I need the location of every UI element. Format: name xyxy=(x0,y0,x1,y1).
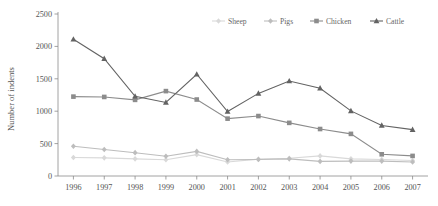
data-point xyxy=(71,143,76,149)
x-tick-label: 2002 xyxy=(250,183,266,192)
legend-label: Chicken xyxy=(326,17,352,26)
data-point xyxy=(194,97,199,102)
y-axis-title: Number of indents xyxy=(6,67,16,131)
x-tick-label: 2004 xyxy=(312,183,328,192)
legend-item-pigs[interactable]: Pigs xyxy=(264,17,293,26)
chart-canvas: 05001000150020002500 1996199719981999200… xyxy=(0,0,438,206)
data-point xyxy=(225,116,230,121)
data-point xyxy=(102,95,107,100)
data-point xyxy=(256,157,261,163)
data-point xyxy=(348,108,354,113)
x-tick-label: 2001 xyxy=(219,183,235,192)
series-pigs xyxy=(71,143,415,164)
series-layer xyxy=(71,36,416,165)
y-tick-label: 500 xyxy=(40,140,52,149)
data-point xyxy=(102,147,107,153)
data-point xyxy=(71,155,76,161)
data-point xyxy=(133,150,138,156)
x-tick-label: 2000 xyxy=(189,183,205,192)
data-point xyxy=(318,153,323,159)
x-tick-label: 2005 xyxy=(343,183,359,192)
legend-label: Sheep xyxy=(228,17,247,26)
legend-marker xyxy=(268,18,273,24)
y-tick-label: 2500 xyxy=(36,10,52,19)
x-tick-label: 1997 xyxy=(96,183,112,192)
data-point xyxy=(410,154,415,159)
x-tick-label: 2007 xyxy=(404,183,420,192)
series-sheep xyxy=(71,152,415,165)
data-point xyxy=(318,159,323,165)
line-chart: 05001000150020002500 1996199719981999200… xyxy=(0,0,438,206)
legend-marker xyxy=(216,18,221,24)
data-point xyxy=(163,153,168,159)
y-axis: 05001000150020002500 xyxy=(36,10,58,181)
series-line-pigs xyxy=(73,146,412,162)
chart-legend: SheepPigsChickenCattle xyxy=(212,17,405,26)
data-point xyxy=(256,114,261,119)
data-point xyxy=(101,56,107,61)
x-tick-label: 2006 xyxy=(374,183,390,192)
legend-label: Cattle xyxy=(386,17,405,26)
data-point xyxy=(133,156,138,162)
data-point xyxy=(164,89,169,94)
y-tick-label: 1000 xyxy=(36,107,52,116)
data-point xyxy=(287,156,292,162)
legend-marker xyxy=(314,19,319,24)
data-point xyxy=(71,36,77,41)
y-tick-label: 1500 xyxy=(36,75,52,84)
data-point xyxy=(194,149,199,155)
x-tick-label: 1998 xyxy=(127,183,143,192)
x-tick-label: 1999 xyxy=(158,183,174,192)
x-axis: 1996199719981999200020012002200320042005… xyxy=(58,176,428,192)
data-point xyxy=(102,155,107,161)
data-point xyxy=(379,152,384,157)
x-tick-label: 1996 xyxy=(65,183,81,192)
legend-item-chicken[interactable]: Chicken xyxy=(310,17,352,26)
legend-item-sheep[interactable]: Sheep xyxy=(212,17,247,26)
y-tick-label: 2000 xyxy=(36,42,52,51)
series-line-chicken xyxy=(73,91,412,156)
legend-item-cattle[interactable]: Cattle xyxy=(370,17,405,26)
series-line-cattle xyxy=(73,39,412,129)
series-chicken xyxy=(71,89,415,158)
data-point xyxy=(71,94,76,99)
data-point xyxy=(318,127,323,132)
data-point xyxy=(287,121,292,126)
data-point xyxy=(349,132,354,137)
legend-label: Pigs xyxy=(280,17,293,26)
data-point xyxy=(286,78,292,83)
data-point xyxy=(194,71,200,76)
y-tick-label: 0 xyxy=(48,172,52,181)
x-tick-label: 2003 xyxy=(281,183,297,192)
